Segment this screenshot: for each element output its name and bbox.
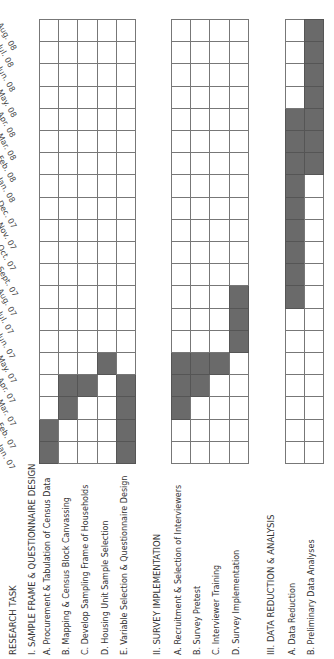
gantt-cell bbox=[171, 396, 191, 419]
gantt-cell bbox=[209, 63, 229, 86]
gantt-cell bbox=[285, 63, 305, 86]
gantt-cell bbox=[190, 241, 210, 264]
gantt-cell bbox=[97, 396, 117, 419]
gantt-cell bbox=[97, 41, 117, 64]
gantt-cell bbox=[97, 263, 117, 286]
gantt-cell bbox=[77, 352, 97, 375]
gantt-cell bbox=[116, 308, 136, 331]
gantt-cell bbox=[171, 41, 191, 64]
gantt-cell bbox=[304, 374, 324, 397]
gantt-cell bbox=[190, 441, 210, 464]
gantt-cell bbox=[116, 374, 136, 397]
gantt-cell bbox=[190, 197, 210, 220]
gantt-cell bbox=[39, 308, 59, 331]
gantt-cell bbox=[97, 219, 117, 242]
gantt-cell bbox=[39, 396, 59, 419]
gantt-cell bbox=[97, 63, 117, 86]
gantt-cell bbox=[116, 441, 136, 464]
gantt-cell bbox=[229, 352, 249, 375]
gantt-cell bbox=[209, 352, 229, 375]
task-label: E. Variable Selection & Questionnaire De… bbox=[120, 476, 129, 655]
gantt-cell bbox=[171, 174, 191, 197]
gantt-cell bbox=[171, 219, 191, 242]
gantt-cell bbox=[77, 197, 97, 220]
gantt-cell bbox=[304, 308, 324, 331]
gantt-cell bbox=[285, 241, 305, 264]
gantt-cell bbox=[229, 174, 249, 197]
gantt-cell bbox=[58, 41, 78, 64]
gantt-cell bbox=[97, 441, 117, 464]
gantt-cell bbox=[304, 396, 324, 419]
gantt-cell bbox=[39, 197, 59, 220]
gantt-cell bbox=[304, 108, 324, 131]
gantt-cell bbox=[171, 352, 191, 375]
gantt-cell bbox=[304, 330, 324, 353]
gantt-cell bbox=[171, 63, 191, 86]
gantt-cell bbox=[285, 130, 305, 153]
gantt-cell bbox=[190, 419, 210, 442]
gantt-cell bbox=[171, 130, 191, 153]
gantt-cell bbox=[304, 241, 324, 264]
gantt-cell bbox=[77, 419, 97, 442]
gantt-cell bbox=[39, 441, 59, 464]
gantt-cell bbox=[116, 197, 136, 220]
gantt-cell bbox=[190, 396, 210, 419]
gantt-cell bbox=[116, 130, 136, 153]
gantt-cell bbox=[77, 130, 97, 153]
gantt-cell bbox=[190, 152, 210, 175]
gantt-cell bbox=[209, 86, 229, 109]
gantt-cell bbox=[97, 152, 117, 175]
gantt-cell bbox=[77, 263, 97, 286]
gantt-cell bbox=[116, 263, 136, 286]
gantt-cell bbox=[97, 174, 117, 197]
gantt-cell bbox=[39, 86, 59, 109]
gantt-cell bbox=[116, 219, 136, 242]
gantt-cell bbox=[97, 352, 117, 375]
gantt-cell bbox=[209, 19, 229, 42]
gantt-cell bbox=[77, 396, 97, 419]
gantt-cell bbox=[209, 330, 229, 353]
gantt-cell bbox=[171, 263, 191, 286]
gantt-cell bbox=[304, 419, 324, 442]
gantt-cell bbox=[77, 441, 97, 464]
gantt-cell bbox=[39, 352, 59, 375]
task-label: B. Preliminary Data Analyses bbox=[307, 539, 316, 655]
gantt-cell bbox=[171, 19, 191, 42]
gantt-cell bbox=[229, 130, 249, 153]
gantt-cell bbox=[58, 86, 78, 109]
gantt-cell bbox=[58, 285, 78, 308]
gantt-cell bbox=[229, 374, 249, 397]
gantt-cell bbox=[97, 241, 117, 264]
gantt-cell bbox=[285, 219, 305, 242]
gantt-cell bbox=[77, 41, 97, 64]
gantt-cell bbox=[229, 330, 249, 353]
gantt-cell bbox=[229, 63, 249, 86]
gantt-cell bbox=[58, 308, 78, 331]
gantt-cell bbox=[171, 152, 191, 175]
gantt-cell bbox=[285, 41, 305, 64]
task-label: B. Survey Pretest bbox=[193, 586, 202, 655]
gantt-cell bbox=[116, 419, 136, 442]
gantt-cell bbox=[97, 197, 117, 220]
gantt-cell bbox=[77, 285, 97, 308]
gantt-cell bbox=[190, 19, 210, 42]
gantt-cell bbox=[77, 108, 97, 131]
gantt-cell bbox=[304, 63, 324, 86]
gantt-cell bbox=[39, 374, 59, 397]
gantt-cell bbox=[304, 352, 324, 375]
gantt-cell bbox=[39, 63, 59, 86]
gantt-cell bbox=[285, 352, 305, 375]
gantt-cell bbox=[171, 441, 191, 464]
gantt-cell bbox=[304, 441, 324, 464]
task-label: D. Survey Implementation bbox=[232, 550, 241, 655]
gantt-cell bbox=[209, 308, 229, 331]
gantt-cell bbox=[304, 130, 324, 153]
gantt-cell bbox=[116, 41, 136, 64]
gantt-cell bbox=[77, 152, 97, 175]
gantt-cell bbox=[285, 374, 305, 397]
gantt-cell bbox=[229, 108, 249, 131]
gantt-cell bbox=[58, 419, 78, 442]
gantt-cell bbox=[285, 108, 305, 131]
gantt-cell bbox=[39, 219, 59, 242]
task-label: A. Data Reduction bbox=[288, 583, 297, 655]
